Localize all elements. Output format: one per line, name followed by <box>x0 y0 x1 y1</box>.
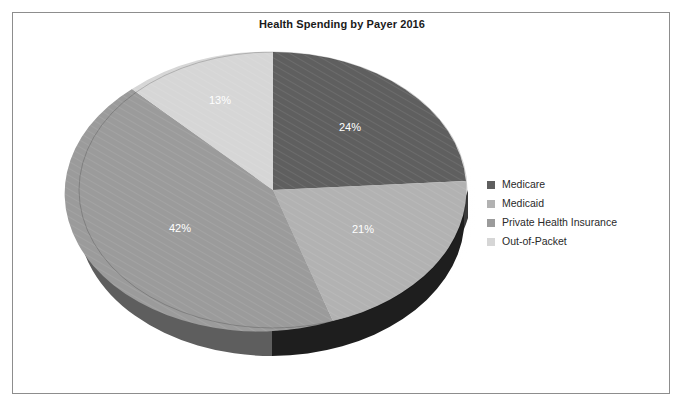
pie-label-medicaid: 21% <box>352 223 374 235</box>
pie-slice-medicare-texture <box>273 52 466 190</box>
legend-swatch-medicare <box>487 181 495 189</box>
chart-legend: Medicare Medicaid Private Health Insuran… <box>487 175 657 251</box>
pie-label-medicare: 24% <box>339 121 361 133</box>
legend-swatch-private-health-insurance <box>487 219 495 227</box>
legend-item-out-of-packet[interactable]: Out-of-Packet <box>487 232 657 251</box>
chart-title: Health Spending by Payer 2016 <box>0 18 684 30</box>
legend-swatch-medicaid <box>487 200 495 208</box>
legend-item-medicaid[interactable]: Medicaid <box>487 194 657 213</box>
pie-label-out-of-packet: 13% <box>209 94 231 106</box>
legend-label-private-health-insurance: Private Health Insurance <box>502 217 617 228</box>
pie-label-private-health-insurance: 42% <box>169 222 191 234</box>
pie-chart-plot-area: 24% 21% 42% 13% <box>60 38 480 378</box>
legend-swatch-out-of-packet <box>487 238 495 246</box>
legend-item-private-health-insurance[interactable]: Private Health Insurance <box>487 213 657 232</box>
legend-label-out-of-packet: Out-of-Packet <box>502 236 567 247</box>
legend-label-medicare: Medicare <box>502 179 545 190</box>
chart-canvas: Health Spending by Payer 2016 <box>0 0 684 408</box>
pie-chart-svg: 24% 21% 42% 13% <box>60 38 480 378</box>
legend-item-medicare[interactable]: Medicare <box>487 175 657 194</box>
legend-label-medicaid: Medicaid <box>502 198 544 209</box>
